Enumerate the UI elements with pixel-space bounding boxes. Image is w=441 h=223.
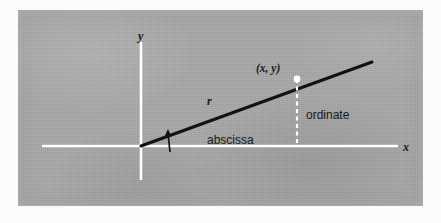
theta-angle-arrow-icon: [165, 129, 172, 152]
ordinate-label: ordinate: [306, 109, 349, 121]
figure-panel: [18, 10, 423, 206]
point-label-xy: (x, y): [256, 63, 280, 75]
x-axis-label: x: [403, 141, 409, 153]
coordinate-diagram-svg: [18, 10, 423, 206]
ray-line: [141, 62, 372, 146]
ray-label-r: r: [207, 95, 212, 107]
point-marker: [294, 76, 301, 83]
figure-root: y x r (x, y) abscissa ordinate: [0, 0, 441, 223]
y-axis-label: y: [138, 30, 143, 42]
abscissa-label: abscissa: [207, 134, 254, 146]
